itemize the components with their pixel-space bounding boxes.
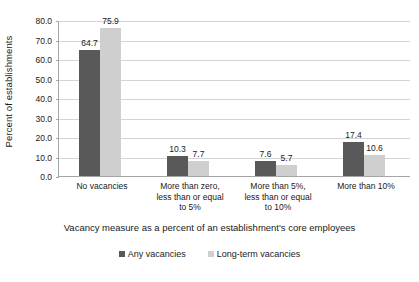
bar-group: 10.37.7: [147, 21, 235, 176]
y-axis-tick-label: 10.0: [35, 153, 52, 163]
y-axis-title-text: Percent of establishments: [4, 35, 15, 147]
bar[interactable]: 10.3: [167, 156, 188, 176]
bar[interactable]: 64.7: [79, 50, 100, 176]
legend-label: Any vacancies: [128, 249, 186, 259]
bar[interactable]: 7.6: [255, 161, 276, 176]
y-axis-tick-label: 60.0: [35, 55, 52, 65]
y-axis-tick-label: 0.0: [40, 172, 52, 182]
legend-swatch-icon: [208, 251, 214, 257]
legend-swatch-icon: [119, 251, 125, 257]
bar-chart-figure: Percent of establishments 80.070.060.050…: [0, 0, 419, 282]
x-axis-category-label: More than 10%: [322, 181, 410, 192]
x-axis-category-label: More than 5%,less than or equalto 10%: [234, 181, 322, 213]
y-axis-tick-label: 80.0: [35, 16, 52, 26]
y-axis-tick-label: 30.0: [35, 114, 52, 124]
bar[interactable]: 75.9: [100, 28, 121, 176]
bar-value-label: 75.9: [102, 16, 119, 26]
bar-value-label: 10.6: [366, 143, 383, 153]
plot-area: 64.775.910.37.77.65.717.410.6: [58, 21, 410, 177]
legend-item[interactable]: Any vacancies: [119, 249, 186, 259]
y-axis-tick-label: 50.0: [35, 75, 52, 85]
bar[interactable]: 17.4: [343, 142, 364, 176]
bars-layer: 64.775.910.37.77.65.717.410.6: [59, 21, 410, 176]
bar-group: 64.775.9: [59, 21, 147, 176]
bar[interactable]: 7.7: [188, 161, 209, 176]
y-axis-tick-label: 40.0: [35, 94, 52, 104]
y-axis-tick-labels: 80.070.060.050.040.030.020.010.00.0: [18, 21, 54, 177]
bar[interactable]: 10.6: [364, 155, 385, 176]
bar-group: 7.65.7: [235, 21, 323, 176]
bar-group: 17.410.6: [323, 21, 411, 176]
bar-value-label: 7.6: [260, 149, 272, 159]
bar-value-label: 5.7: [281, 153, 293, 163]
x-axis-title-text: Vacancy measure as a percent of an estab…: [64, 222, 356, 233]
y-axis-tickmark: [56, 177, 59, 178]
x-axis-title: Vacancy measure as a percent of an estab…: [0, 222, 419, 233]
bar-value-label: 10.3: [169, 144, 186, 154]
legend-item[interactable]: Long-term vacancies: [208, 249, 301, 259]
bar-value-label: 64.7: [81, 38, 98, 48]
y-axis-tick-label: 70.0: [35, 36, 52, 46]
bar[interactable]: 5.7: [276, 165, 297, 176]
y-axis-title: Percent of establishments: [0, 0, 18, 182]
x-axis-category-label: No vacancies: [58, 181, 146, 192]
legend-label: Long-term vacancies: [217, 249, 301, 259]
bar-value-label: 7.7: [193, 149, 205, 159]
x-axis-category-label: More than zero,less than or equalto 5%: [146, 181, 234, 213]
chart-legend: Any vacanciesLong-term vacancies: [0, 249, 419, 259]
y-axis-tick-label: 20.0: [35, 133, 52, 143]
bar-value-label: 17.4: [345, 130, 362, 140]
x-axis-category-labels: No vacanciesMore than zero,less than or …: [58, 181, 410, 217]
